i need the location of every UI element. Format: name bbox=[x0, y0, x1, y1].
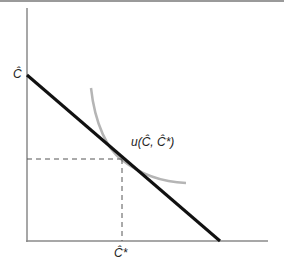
curve-label: u(Ĉ, Ĉ*) bbox=[131, 135, 174, 149]
y-intercept-label: Ĉ bbox=[13, 67, 22, 81]
x-tangent-label: Ĉ* bbox=[114, 246, 127, 260]
budget-line bbox=[27, 75, 220, 241]
